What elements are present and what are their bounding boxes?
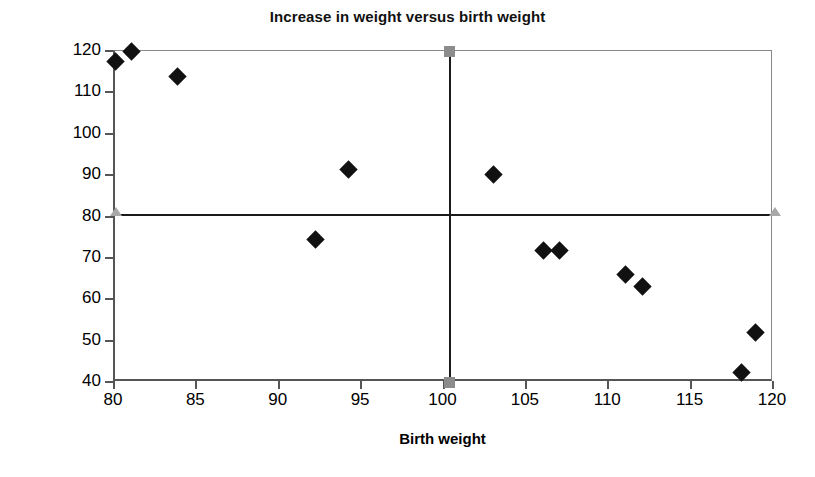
data-point [106,52,124,70]
x-tick-label: 100 [413,390,473,410]
x-tick-label: 95 [330,390,390,410]
x-tick-label: 85 [165,390,225,410]
x-tick-label: 120 [742,390,802,410]
x-tick-mark [607,381,609,389]
y-tick-label: 120 [55,40,101,60]
y-tick-mark [105,298,113,300]
x-tick-label: 115 [660,390,720,410]
x-tick-mark [772,381,774,389]
y-tick-label: 60 [55,288,101,308]
y-tick-mark [105,91,113,93]
y-tick-label: 90 [55,164,101,184]
reference-line-handle[interactable] [444,377,455,388]
x-tick-mark [360,381,362,389]
x-tick-mark [525,381,527,389]
data-point [168,67,186,85]
reference-line-handle[interactable] [769,207,781,216]
data-point [617,265,635,283]
x-tick-mark [690,381,692,389]
y-tick-label: 100 [55,123,101,143]
x-tick-mark [195,381,197,389]
x-axis-title: Birth weight [113,430,772,447]
x-tick-mark [278,381,280,389]
horizontal-reference-line[interactable] [115,214,771,216]
y-tick-mark [105,50,113,52]
x-tick-label: 90 [248,390,308,410]
chart-figure: Increase in weight versus birth weight P… [0,0,815,477]
chart-title: Increase in weight versus birth weight [0,8,815,25]
reference-line-handle[interactable] [110,207,122,216]
data-point [633,277,651,295]
y-tick-label: 50 [55,330,101,350]
data-point [551,241,569,259]
y-tick-mark [105,257,113,259]
y-tick-mark [105,340,113,342]
y-tick-label: 70 [55,247,101,267]
y-tick-label: 80 [55,206,101,226]
data-point [485,165,503,183]
data-point [732,363,750,381]
x-tick-label: 80 [83,390,143,410]
plot-area [113,50,772,381]
y-tick-mark [105,174,113,176]
x-tick-label: 110 [577,390,637,410]
x-tick-label: 105 [495,390,555,410]
data-point [307,230,325,248]
y-tick-label: 110 [55,81,101,101]
data-point [747,323,765,341]
data-point [340,161,358,179]
y-tick-mark [105,381,113,383]
y-tick-label: 40 [55,371,101,391]
vertical-reference-line[interactable] [449,51,451,379]
reference-line-handle[interactable] [444,46,455,57]
x-tick-mark [113,381,115,389]
data-point [122,43,140,61]
y-tick-mark [105,133,113,135]
